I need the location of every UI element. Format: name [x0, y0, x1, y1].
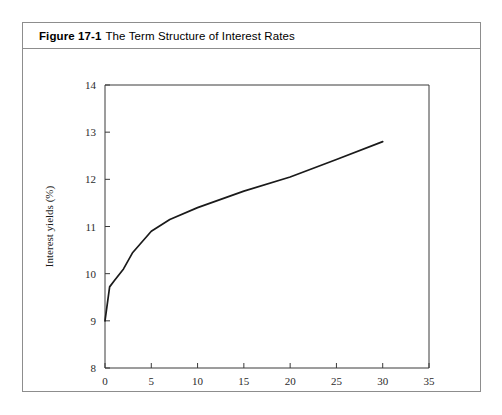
axis-frame [105, 85, 429, 368]
y-tick-label: 11 [85, 221, 96, 233]
x-tick-label: 20 [285, 375, 297, 387]
y-axis-label: Interest yields (%) [43, 186, 56, 268]
figure-header: Figure 17-1 The Term Structure of Intere… [23, 23, 480, 49]
y-tick-label: 14 [85, 79, 97, 91]
x-tick-label: 0 [102, 375, 108, 387]
x-tick-label: 15 [238, 375, 250, 387]
y-tick-label: 10 [85, 268, 97, 280]
x-axis-ticks: 05101520253035 [102, 363, 435, 387]
y-tick-label: 9 [91, 315, 97, 327]
x-tick-label: 25 [331, 375, 343, 387]
y-tick-label: 13 [85, 126, 97, 138]
x-tick-label: 35 [424, 375, 436, 387]
chart-plot-area: 891011121314 05101520253035 Term to matu… [23, 49, 482, 392]
x-tick-label: 30 [377, 375, 389, 387]
y-tick-label: 12 [85, 173, 96, 185]
yield-curve-line [105, 142, 383, 321]
line-chart: 891011121314 05101520253035 Term to matu… [23, 49, 482, 392]
y-axis-ticks: 891011121314 [85, 79, 110, 374]
x-tick-label: 10 [192, 375, 204, 387]
x-tick-label: 5 [149, 375, 155, 387]
figure-container: Figure 17-1 The Term Structure of Intere… [22, 22, 481, 392]
figure-number: Figure 17-1 [39, 30, 101, 42]
y-tick-label: 8 [91, 362, 97, 374]
figure-title: The Term Structure of Interest Rates [105, 30, 294, 42]
